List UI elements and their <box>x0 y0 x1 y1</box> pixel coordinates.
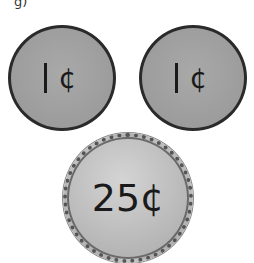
cent-symbol: ¢ <box>59 62 81 95</box>
one-numeral <box>44 63 47 93</box>
quarter-coin: 25¢ <box>63 133 193 263</box>
one-numeral <box>175 63 178 93</box>
penny-coin: ¢ <box>8 25 116 131</box>
cent-symbol: ¢ <box>190 62 212 95</box>
problem-label: g) <box>14 0 27 9</box>
coin-value: 25¢ <box>92 176 165 220</box>
penny-coin: ¢ <box>139 25 247 131</box>
